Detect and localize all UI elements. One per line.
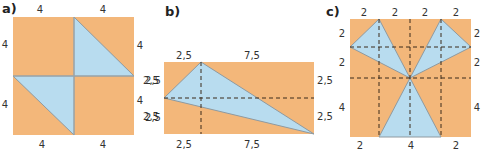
c-bottom-label-1: 2 <box>357 140 363 151</box>
c-left-label-3: 4 <box>339 102 345 113</box>
c-bottom-label-3: 2 <box>453 140 459 151</box>
figure-c-label: c) <box>326 4 340 19</box>
b-top-label-1: 2,5 <box>176 50 192 61</box>
c-top-label-3: 2 <box>422 7 428 18</box>
c-left-label-1: 2 <box>339 28 345 39</box>
a-right-label-3: 4 <box>137 95 143 106</box>
c-right-label-1: 2 <box>474 28 480 39</box>
a-left-label-1: 4 <box>2 39 8 50</box>
a-bottom-label-1: 4 <box>39 139 45 150</box>
b-right-label-2: 2,5 <box>317 111 333 122</box>
c-right-label-3: 4 <box>474 102 480 113</box>
figure-b: b) 2,5 7,5 2,5 2,5 2,5 2,5 2,5 7,5 <box>143 4 333 150</box>
c-top-label-4: 2 <box>453 7 459 18</box>
a-left-label-2: 4 <box>2 99 8 110</box>
b-top-label-2: 7,5 <box>244 50 260 61</box>
c-top-label-1: 2 <box>361 7 367 18</box>
a-top-label-1: 4 <box>37 4 43 15</box>
figure-a: a) 4 4 4 4 4 2,5 4 2,5 4 4 <box>2 1 161 150</box>
b-right-label-1: 2,5 <box>317 75 333 86</box>
c-bottom-label-2: 4 <box>408 140 414 151</box>
c-right-label-2: 2 <box>474 57 480 68</box>
b-bottom-label-1: 2,5 <box>176 139 192 150</box>
b-left-label-2: 2,5 <box>143 111 159 122</box>
c-top-label-2: 2 <box>392 7 398 18</box>
a-bottom-label-2: 4 <box>100 139 106 150</box>
b-left-label-1: 2,5 <box>143 75 159 86</box>
a-right-label-1: 4 <box>137 40 143 51</box>
b-bottom-label-2: 7,5 <box>244 139 260 150</box>
figure-c: c) 2 2 2 2 2 2 4 2 2 4 2 4 2 <box>326 4 480 151</box>
c-left-label-2: 2 <box>339 57 345 68</box>
geometry-figures: a) 4 4 4 4 4 2,5 4 2,5 4 4 b) 2,5 7,5 2,… <box>0 0 483 152</box>
a-top-label-2: 4 <box>100 4 106 15</box>
figure-b-label: b) <box>165 4 180 19</box>
figure-a-label: a) <box>2 1 17 16</box>
